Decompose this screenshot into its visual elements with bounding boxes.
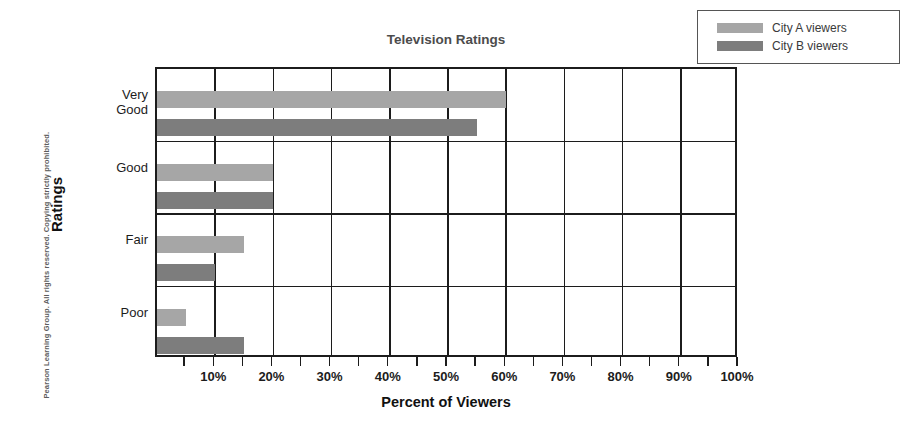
bar-poor-city-b-viewers — [157, 337, 244, 354]
bar-good-city-a-viewers — [157, 164, 273, 181]
legend-swatch-city-a — [717, 23, 763, 33]
x-axis-minor-tick — [445, 357, 446, 366]
x-axis-minor-tick — [358, 357, 359, 366]
x-axis-minor-tick — [387, 357, 388, 366]
x-axis-tick-label: 40% — [358, 369, 418, 384]
x-axis-minor-tick — [736, 357, 737, 366]
y-axis-tick-label: Fair — [28, 232, 148, 247]
x-axis-tick-label: 10% — [183, 369, 243, 384]
x-axis-minor-tick — [329, 357, 330, 366]
x-axis-tick-label: 20% — [241, 369, 301, 384]
chart-title: Television Ratings — [155, 32, 737, 47]
y-axis-tick-label-line: Good — [28, 102, 148, 117]
x-axis-minor-tick — [707, 357, 708, 366]
y-axis-tick-label: Poor — [28, 305, 148, 320]
x-axis-minor-tick — [620, 357, 621, 366]
x-axis-minor-tick — [213, 357, 214, 366]
gridline-vertical — [622, 69, 624, 355]
gridline-vertical — [331, 69, 333, 355]
x-axis-minor-tick — [591, 357, 592, 366]
legend-label-city-a: City A viewers — [772, 21, 847, 35]
bar-poor-city-a-viewers — [157, 309, 186, 326]
x-axis-tick-label: 30% — [300, 369, 360, 384]
y-axis-tick-label: Good — [28, 160, 148, 175]
x-axis-minor-tick — [242, 357, 243, 366]
x-axis-title: Percent of Viewers — [155, 394, 737, 410]
bar-good-city-b-viewers — [157, 192, 273, 209]
gridline-category-separator — [157, 213, 735, 215]
y-axis-tick-label-line: Fair — [28, 232, 148, 247]
x-axis-minor-tick — [271, 357, 272, 366]
legend-label-city-b: City B viewers — [772, 39, 848, 53]
gridline-vertical — [564, 69, 566, 355]
plot-area — [155, 67, 737, 357]
x-axis-minor-tick — [300, 357, 301, 366]
bar-very-good-city-a-viewers — [157, 91, 506, 108]
chart-legend: City A viewers City B viewers — [697, 10, 900, 64]
y-axis-category-labels: VeryGoodGoodFairPoor — [20, 67, 148, 357]
x-axis-minor-tick — [649, 357, 650, 366]
x-axis-tick-label: 80% — [591, 369, 651, 384]
y-axis-tick-label-line: Poor — [28, 305, 148, 320]
gridline-vertical — [273, 69, 275, 355]
x-axis-minor-tick — [678, 357, 679, 366]
y-axis-tick-label-line: Very — [28, 87, 148, 102]
gridline-vertical — [505, 69, 507, 355]
legend-item-city-a: City A viewers — [717, 20, 899, 36]
gridline-vertical — [447, 69, 449, 355]
gridline-vertical — [389, 69, 391, 355]
x-axis-tick-label: 50% — [416, 369, 476, 384]
bar-fair-city-a-viewers — [157, 236, 244, 253]
x-axis-minor-tick — [183, 357, 184, 366]
plot-inner — [157, 69, 735, 355]
gridline-category-separator — [157, 286, 735, 288]
x-axis-minor-tick — [504, 357, 505, 366]
bar-fair-city-b-viewers — [157, 264, 215, 281]
x-axis-minor-tick — [562, 357, 563, 366]
x-axis-tick-label: 60% — [474, 369, 534, 384]
bar-very-good-city-b-viewers — [157, 119, 477, 136]
y-axis-tick-label-line: Good — [28, 160, 148, 175]
x-axis-minor-tick — [416, 357, 417, 366]
chart-figure: Pearson Learning Group. All rights reser… — [0, 0, 911, 448]
gridline-vertical — [680, 69, 682, 355]
x-axis-minor-tick — [474, 357, 475, 366]
x-axis-tick-label: 90% — [649, 369, 709, 384]
legend-item-city-b: City B viewers — [717, 38, 899, 54]
x-axis-minor-tick — [533, 357, 534, 366]
gridline-category-separator — [157, 141, 735, 143]
x-axis-tick-label: 100% — [707, 369, 767, 384]
gridline-vertical — [214, 69, 216, 355]
legend-swatch-city-b — [717, 41, 763, 51]
y-axis-title: Ratings — [48, 145, 65, 265]
y-axis-tick-label: VeryGood — [28, 87, 148, 117]
x-axis-tick-label: 70% — [532, 369, 592, 384]
